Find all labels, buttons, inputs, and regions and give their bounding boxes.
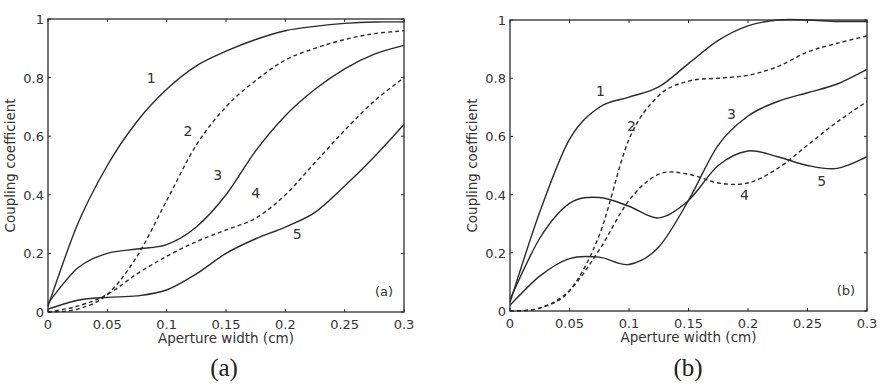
y-tick-label: 0.8 [485, 71, 506, 86]
x-tick-label: 0.3 [857, 316, 878, 331]
panel-caption: (a) [210, 354, 238, 382]
y-tick-label: 0.8 [23, 71, 44, 86]
y-tick-label: 0.2 [485, 246, 506, 261]
panel-tag: (b) [837, 283, 855, 298]
series-label-1: 1 [596, 83, 605, 99]
y-tick-label: 0.6 [485, 129, 506, 144]
x-tick-label: 0 [506, 316, 514, 331]
x-axis-label: Aperture width (cm) [158, 330, 294, 346]
series-line-5 [510, 151, 867, 300]
series-line-3 [510, 69, 867, 305]
series-label-5: 5 [293, 226, 302, 242]
x-tick-label: 0.25 [793, 316, 822, 331]
y-tick-label: 0 [498, 304, 506, 319]
series-label-4: 4 [251, 185, 260, 201]
series-line-3 [48, 45, 404, 303]
x-tick-label: 0.05 [93, 317, 122, 332]
series-label-4: 4 [740, 187, 749, 203]
x-tick-label: 0.25 [330, 317, 359, 332]
y-tick-label: 1 [498, 13, 506, 28]
series-label-5: 5 [817, 173, 826, 189]
y-tick-label: 0.4 [23, 188, 44, 203]
series-line-4 [510, 101, 867, 311]
series-line-1 [48, 22, 404, 306]
x-axis-label: Aperture width (cm) [621, 329, 757, 345]
panel-caption: (b) [673, 354, 702, 382]
figure: 00.050.10.150.20.250.300.20.40.60.811234… [0, 0, 884, 392]
series-label-3: 3 [727, 106, 736, 122]
series-line-5 [48, 124, 404, 309]
chart-panel-b: 00.050.10.150.20.250.300.20.40.60.811234… [464, 13, 877, 382]
panel-tag: (a) [375, 284, 393, 299]
series-line-2 [48, 31, 404, 312]
series-label-3: 3 [213, 167, 222, 183]
x-tick-label: 0 [44, 317, 52, 332]
x-tick-label: 0.3 [394, 317, 415, 332]
series-label-2: 2 [184, 123, 193, 139]
y-axis-label: Coupling coefficient [464, 98, 480, 232]
y-tick-label: 0 [36, 305, 44, 320]
series-line-1 [510, 20, 867, 303]
y-axis-label: Coupling coefficient [2, 98, 18, 232]
y-tick-label: 1 [36, 12, 44, 27]
y-tick-label: 0.2 [23, 246, 44, 261]
series-label-2: 2 [627, 118, 636, 134]
series-line-2 [510, 36, 867, 311]
y-tick-label: 0.4 [485, 188, 506, 203]
y-tick-label: 0.6 [23, 129, 44, 144]
plot-area-frame [48, 19, 404, 312]
x-tick-label: 0.05 [555, 316, 584, 331]
chart-panel-a: 00.050.10.150.20.250.300.20.40.60.811234… [2, 12, 414, 382]
series-label-1: 1 [147, 70, 156, 86]
